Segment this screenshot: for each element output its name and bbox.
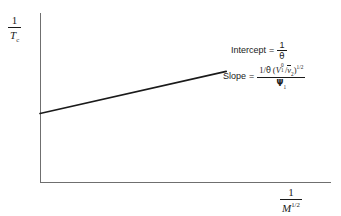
x-axis-label-denominator-exponent: 1/2: [291, 201, 300, 208]
intercept-equals-sign: =: [269, 46, 274, 56]
y-axis-label-denominator: Tc: [8, 28, 21, 44]
intercept-annotation-row: Intercept = 1 θ: [231, 40, 287, 62]
plot-line-svg: [0, 0, 341, 216]
slope-equals-sign: =: [249, 72, 254, 82]
y-axis: [40, 13, 41, 183]
slope-annotation-row: Slope = 1/θ(V01/v2)1/2 Ψ1: [223, 64, 305, 89]
x-axis-label-fraction: 1 M1/2: [280, 186, 302, 214]
chart-figure: 1 Tc 1 M1/2 Intercept = 1 θ Slope = 1/θ(…: [0, 0, 341, 216]
slope-numerator: 1/θ(V01/v2)1/2: [257, 64, 305, 78]
data-line: [40, 71, 226, 113]
slope-denominator-psi-subscript: 1: [283, 83, 286, 89]
slope-numerator-V-subscript: 1: [281, 67, 284, 73]
intercept-annotation: Intercept = 1 θ: [231, 40, 287, 62]
slope-value-fraction: 1/θ(V01/v2)1/2 Ψ1: [257, 64, 305, 89]
x-axis-label: 1 M1/2: [280, 186, 302, 214]
intercept-value-denominator: θ: [277, 51, 286, 62]
y-axis-label: 1 Tc: [8, 14, 21, 44]
x-axis-label-numerator: 1: [280, 186, 302, 200]
slope-label: Slope: [223, 72, 246, 82]
x-axis-label-denominator-base: M: [282, 201, 291, 213]
slope-annotation: Slope = 1/θ(V01/v2)1/2 Ψ1: [223, 64, 305, 89]
intercept-label: Intercept: [231, 46, 266, 56]
intercept-value-fraction: 1 θ: [277, 40, 286, 62]
y-axis-label-numerator: 1: [8, 14, 21, 28]
y-axis-label-denominator-subscript: c: [16, 36, 19, 43]
slope-numerator-exponent: 1/2: [297, 64, 304, 70]
x-axis-label-denominator: M1/2: [280, 200, 302, 214]
x-axis: [40, 182, 331, 183]
y-axis-label-fraction: 1 Tc: [8, 14, 21, 44]
intercept-value-numerator: 1: [277, 40, 286, 51]
slope-numerator-one-over: 1/: [259, 65, 266, 75]
slope-denominator: Ψ1: [257, 78, 305, 90]
